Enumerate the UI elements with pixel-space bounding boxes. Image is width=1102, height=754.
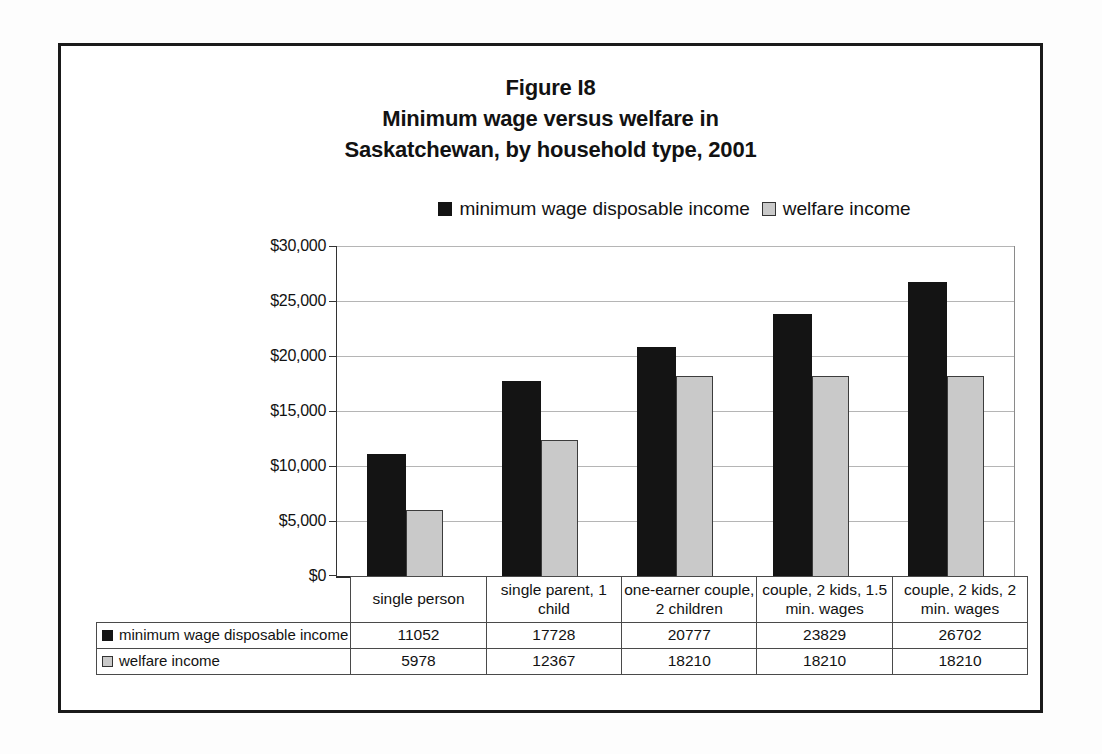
legend-label: minimum wage disposable income [459,198,749,220]
y-axis-label: $10,000 [270,457,326,475]
bar-group [879,246,1014,576]
value-cell: 11052 [351,623,486,649]
figure-title-line3: Saskatchewan, by household type, 2001 [61,134,1040,165]
bar-group [337,246,472,576]
legend-label: welfare income [783,198,911,220]
table-data-row: minimum wage disposable income1105217728… [97,623,1028,649]
y-axis-label: $15,000 [270,402,326,420]
figure-number: Figure I8 [61,72,1040,103]
bar-welfare [812,376,849,576]
legend-swatch-icon [438,202,452,216]
category-header-cell: one-earner couple, 2 children [622,577,757,623]
chart-legend: minimum wage disposable incomewelfare in… [336,198,1013,220]
category-header-cell: single parent, 1 child [486,577,621,623]
bar-welfare [947,376,984,576]
table-data-row: welfare income597812367182101821018210 [97,649,1028,675]
category-header-cell: couple, 2 kids, 1.5 min. wages [757,577,892,623]
legend-item: minimum wage disposable income [438,198,749,220]
bar-group [743,246,878,576]
bar-group [608,246,743,576]
y-axis-tick [329,356,337,357]
bar-minimum-wage [502,381,541,576]
series-label-cell: welfare income [97,649,351,675]
y-axis-label: $5,000 [279,512,326,530]
value-cell: 20777 [622,623,757,649]
bar-minimum-wage [637,347,676,576]
value-cell: 23829 [757,623,892,649]
bar-welfare [676,376,713,576]
category-header-cell: couple, 2 kids, 2 min. wages [892,577,1027,623]
figure-title-line2: Minimum wage versus welfare in [61,103,1040,134]
value-cell: 26702 [892,623,1027,649]
value-cell: 12367 [486,649,621,675]
series-swatch-icon [102,656,113,667]
bar-minimum-wage [367,454,406,576]
plot-area: $0$5,000$10,000$15,000$20,000$25,000$30,… [336,246,1015,578]
legend-swatch-icon [762,202,776,216]
value-cell: 18210 [892,649,1027,675]
bar-welfare [406,510,443,576]
page: Figure I8 Minimum wage versus welfare in… [0,0,1102,754]
bar-minimum-wage [908,282,947,576]
y-axis-label: $25,000 [270,292,326,310]
bar-welfare [541,440,578,576]
data-table: single personsingle parent, 1 childone-e… [96,576,1028,675]
y-axis-tick [329,521,337,522]
legend-item: welfare income [762,198,911,220]
value-cell: 5978 [351,649,486,675]
value-cell: 18210 [622,649,757,675]
bar-group [472,246,607,576]
series-swatch-icon [102,630,113,641]
value-cell: 18210 [757,649,892,675]
category-header-cell: single person [351,577,486,623]
y-axis-tick [329,411,337,412]
table-corner-cell [97,577,351,623]
y-axis-tick [329,301,337,302]
y-axis-label: $30,000 [270,237,326,255]
y-axis-tick [329,466,337,467]
table-header-row: single personsingle parent, 1 childone-e… [97,577,1028,623]
bar-minimum-wage [773,314,812,576]
y-axis-tick [329,246,337,247]
figure-title: Figure I8 Minimum wage versus welfare in… [61,46,1040,165]
figure-frame: Figure I8 Minimum wage versus welfare in… [58,43,1043,713]
series-label-cell: minimum wage disposable income [97,623,351,649]
y-axis-label: $20,000 [270,347,326,365]
value-cell: 17728 [486,623,621,649]
